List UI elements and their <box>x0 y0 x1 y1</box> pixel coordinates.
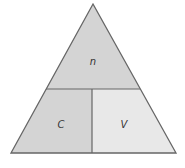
top-section <box>46 4 140 89</box>
bottom-right-section <box>92 89 176 153</box>
label-top: n <box>90 56 96 67</box>
bottom-left-section <box>11 89 92 153</box>
label-bottom-left: C <box>58 119 65 130</box>
formula-triangle-diagram: n C V <box>0 0 185 168</box>
label-bottom-right: V <box>121 119 129 130</box>
